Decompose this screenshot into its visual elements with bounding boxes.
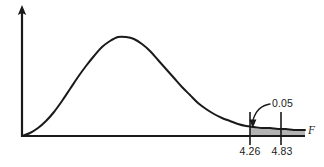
tick-label-critical-value-upper: 4.83 (272, 145, 293, 157)
f-distribution-chart: 0.05 4.26 4.83 F (0, 0, 324, 167)
annotation-leader-line (253, 104, 270, 120)
tick-label-critical-value-lower: 4.26 (240, 145, 261, 157)
tail-area-label: 0.05 (272, 97, 293, 109)
x-axis-label: F (307, 124, 316, 136)
distribution-curve (22, 37, 305, 136)
